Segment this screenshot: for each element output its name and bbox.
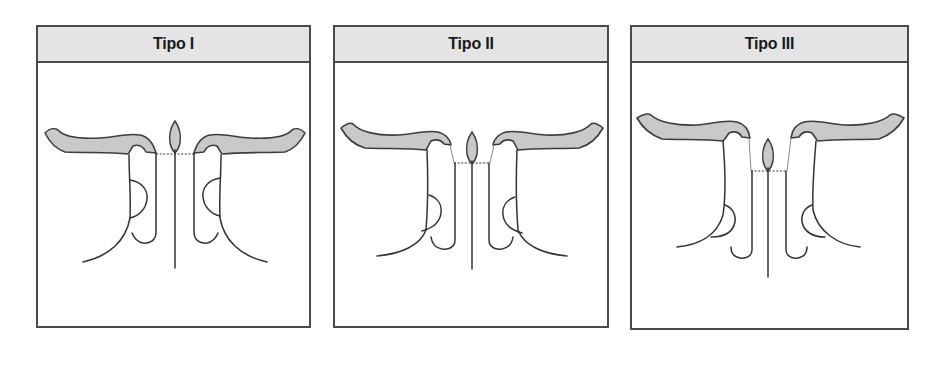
panel-tipo-3: Tipo III xyxy=(630,25,909,330)
panel-tipo-2: Tipo II xyxy=(333,25,609,328)
panel-header: Tipo I xyxy=(38,27,309,63)
panel-header: Tipo III xyxy=(632,27,907,63)
panel-tipo-1: Tipo I xyxy=(36,25,311,328)
panel-title: Tipo I xyxy=(153,35,194,53)
panel-title: Tipo II xyxy=(448,35,493,53)
panel-title: Tipo III xyxy=(745,35,795,53)
panel-header: Tipo II xyxy=(335,27,607,63)
